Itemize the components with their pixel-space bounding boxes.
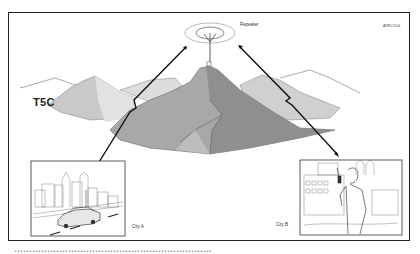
- antenna-icon: [204, 33, 216, 42]
- city-a-panel: [31, 161, 125, 236]
- city-b-label: City B: [276, 222, 288, 227]
- repeater-label: Repeater: [240, 22, 259, 27]
- arrow-head-down-right: [334, 152, 339, 157]
- city-a-label: City A: [132, 224, 144, 229]
- figure-caption-cut: …………………………………………………………: [14, 244, 212, 254]
- city-b-panel: [300, 160, 402, 235]
- figure-code: ARRL2104: [383, 24, 400, 28]
- repeater-hut: [207, 62, 211, 66]
- side-label: T5C: [33, 96, 55, 108]
